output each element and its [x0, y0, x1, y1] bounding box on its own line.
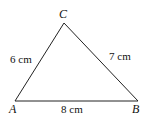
vertex-label-a: A [8, 102, 17, 116]
side-label-bc: 7 cm [109, 50, 131, 62]
side-label-ac: 6 cm [10, 53, 32, 65]
triangle-abc [15, 23, 138, 101]
vertex-label-c: C [59, 7, 68, 21]
side-label-ab: 8 cm [61, 103, 83, 115]
vertex-label-b: B [132, 102, 140, 116]
triangle-diagram: C A B 6 cm 7 cm 8 cm [0, 0, 152, 123]
